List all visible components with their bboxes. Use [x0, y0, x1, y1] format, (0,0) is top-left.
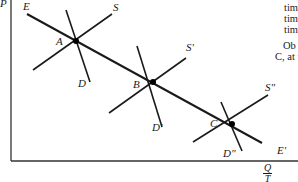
label-s-prime: S': [186, 42, 194, 53]
point-c-marker: [229, 121, 235, 127]
label-d-prime: D': [152, 122, 162, 133]
label-e-prime: E': [277, 145, 286, 156]
label-c: C: [210, 118, 217, 129]
side-text-para-start: Ob: [283, 41, 296, 52]
label-a: A: [56, 36, 63, 47]
side-text-line-1: tim: [284, 3, 298, 14]
supply-demand-diagram: [0, 0, 298, 182]
side-text-line-3: tim: [284, 25, 298, 36]
label-d: D: [78, 78, 86, 89]
point-a-marker: [73, 38, 79, 44]
y-axis-label: P: [0, 0, 7, 9]
point-b-marker: [150, 79, 156, 85]
supply-curve-s: [33, 14, 112, 70]
side-text-para-line-2: C, at t: [275, 52, 298, 63]
x-axis-label-denominator: T: [263, 174, 272, 182]
label-d-double-prime: D": [223, 148, 236, 159]
label-e: E: [23, 1, 30, 12]
label-s-double-prime: S": [265, 82, 275, 93]
supply-curve-s-double-prime: [193, 95, 268, 142]
x-axis-label: Q T: [263, 163, 272, 182]
label-s: S: [113, 2, 119, 13]
side-text-line-2: tim: [284, 14, 298, 25]
expansion-path-line: [27, 14, 262, 143]
label-b: B: [133, 79, 140, 90]
